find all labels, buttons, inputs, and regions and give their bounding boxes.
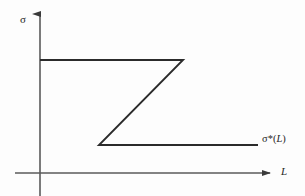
- curve-label: σ*(L): [262, 134, 286, 145]
- sigma-star-curve: [40, 60, 258, 145]
- y-axis-label: σ: [20, 14, 26, 25]
- figure-container: σ L σ*(L): [0, 0, 305, 196]
- figure-drawing: [0, 0, 305, 196]
- x-axis-label: L: [281, 166, 287, 177]
- curve-label-close-paren: ): [282, 133, 286, 144]
